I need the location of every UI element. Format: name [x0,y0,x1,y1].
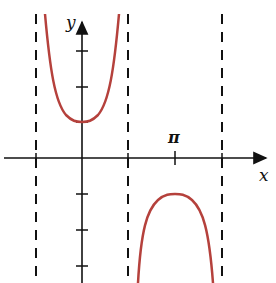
plot-area [0,0,276,283]
x-axis-label: x [259,165,269,185]
sec-branch-lower [138,194,213,283]
y-axis-label: y [66,12,76,32]
pi-label: π [168,128,180,147]
sec-graph: y x π [0,0,276,283]
